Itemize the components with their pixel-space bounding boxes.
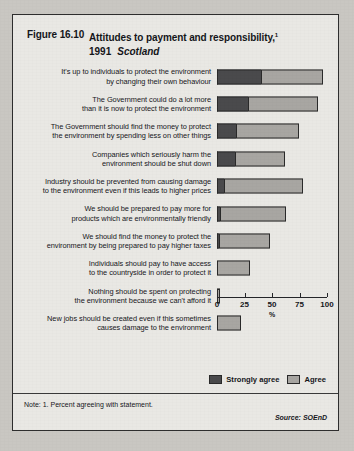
category-label-line: Industry should be prevented from causin… (13, 177, 211, 186)
category-label: It's up to individuals to protect the en… (13, 67, 217, 85)
figure-title: Attitudes to payment and responsibility,… (89, 29, 328, 44)
bar-segment-strongly-agree (217, 124, 236, 139)
legend-item: Agree (287, 375, 326, 384)
category-label-line: to the countryside in order to protect i… (13, 268, 211, 277)
bar-segment-strongly-agree (217, 151, 235, 166)
x-axis-tick-label: 0 (215, 300, 219, 309)
chart-row: Industry should be prevented from causin… (13, 173, 340, 200)
figure-region: Scotland (117, 46, 159, 58)
stacked-bar (217, 97, 318, 112)
category-label: The Government could do a lot morethan i… (13, 95, 217, 113)
figure-title-block: Figure 16.10 Attitudes to payment and re… (27, 29, 328, 58)
bar-track (217, 63, 340, 90)
x-axis-tick-label: 100 (320, 300, 333, 309)
bar-segment-agree (220, 206, 286, 221)
category-label: The Government should find the money to … (13, 122, 217, 140)
bar-track (217, 255, 340, 282)
bar-segment-strongly-agree (217, 97, 248, 112)
bar-track (217, 118, 340, 145)
legend-label: Agree (304, 375, 326, 384)
bar-segment-agree (235, 151, 286, 166)
legend-swatch (209, 375, 222, 384)
x-axis-tick (272, 293, 273, 298)
category-label-line: environment by being prepared to pay hig… (13, 241, 211, 250)
category-label-line: the environment by spending less on othe… (13, 131, 211, 140)
x-axis-tick-label: 50 (268, 300, 277, 309)
x-axis-tick (300, 293, 301, 298)
bar-track (217, 173, 340, 200)
x-axis-label: % (269, 311, 275, 318)
category-label-line: products which are environmentally frien… (13, 214, 211, 223)
legend-label: Strongly agree (226, 375, 279, 384)
figure-number: Figure 16.10 (27, 29, 89, 41)
figure-title-text: Attitudes to payment and responsibility, (89, 32, 275, 43)
x-axis: % 0255075100 (217, 297, 334, 327)
category-label-line: The Government could do a lot more (13, 95, 211, 104)
category-label-line: Nothing should be spent on protecting (13, 287, 211, 296)
category-label-line: causes damage to the environment (13, 323, 211, 332)
stacked-bar (217, 234, 270, 249)
screenshot-page: Figure 16.10 Attitudes to payment and re… (0, 0, 354, 451)
x-axis-tick (327, 293, 328, 298)
bar-segment-strongly-agree (217, 179, 224, 194)
chart-legend: Strongly agreeAgree (13, 375, 326, 384)
bar-segment-agree (217, 261, 250, 276)
title-line-1: Figure 16.10 Attitudes to payment and re… (27, 29, 328, 44)
category-label: We should find the money to protect thee… (13, 232, 217, 250)
bar-segment-strongly-agree (217, 69, 261, 84)
bar-track (217, 90, 340, 117)
category-label: We should be prepared to pay more forpro… (13, 204, 217, 222)
figure-source: Source: SOEnD (275, 414, 327, 421)
x-axis-tick (245, 293, 246, 298)
category-label-line: by changing their own behaviour (13, 77, 211, 86)
stacked-bar (217, 206, 286, 221)
x-axis-tick-label: 75 (295, 300, 304, 309)
category-label: Nothing should be spent on protectingthe… (13, 287, 217, 305)
x-axis-tick-label: 25 (240, 300, 249, 309)
title-line-2: 1991 Scotland (27, 46, 328, 58)
legend-item: Strongly agree (209, 375, 279, 384)
figure-note: Note: 1. Percent agreeing with statement… (24, 401, 153, 408)
chart-row: Companies which seriously harm theenviro… (13, 145, 340, 172)
bar-segment-agree (236, 124, 300, 139)
category-label-line: than it is now to protect the environmen… (13, 104, 211, 113)
bar-segment-agree (261, 69, 323, 84)
category-label-line: environment should be shut down (13, 159, 211, 168)
x-axis-tick (217, 293, 218, 298)
category-label: Industry should be prevented from causin… (13, 177, 217, 195)
chart-row: We should find the money to protect thee… (13, 227, 340, 254)
category-label: Individuals should pay to have accessto … (13, 259, 217, 277)
chart-row: It's up to individuals to protect the en… (13, 63, 340, 90)
bar-track (217, 200, 340, 227)
chart-row: The Government should find the money to … (13, 118, 340, 145)
stacked-bar (217, 124, 299, 139)
chart-row: The Government could do a lot morethan i… (13, 90, 340, 117)
category-label-line: New jobs should be created even if this … (13, 314, 211, 323)
stacked-bar (217, 69, 323, 84)
category-label: New jobs should be created even if this … (13, 314, 217, 332)
figure-title-footnote-marker: 1 (275, 32, 278, 38)
bar-track (217, 145, 340, 172)
figure-panel: Figure 16.10 Attitudes to payment and re… (12, 14, 339, 431)
category-label-line: Companies which seriously harm the (13, 150, 211, 159)
category-label-line: Individuals should pay to have access (13, 259, 211, 268)
bar-segment-agree (219, 234, 270, 249)
stacked-bar (217, 261, 250, 276)
category-label: Companies which seriously harm theenviro… (13, 150, 217, 168)
bar-track (217, 227, 340, 254)
category-label-line: to the environment even if this leads to… (13, 186, 211, 195)
bar-segment-agree (248, 97, 318, 112)
chart-row: We should be prepared to pay more forpro… (13, 200, 340, 227)
category-label-line: We should be prepared to pay more for (13, 204, 211, 213)
category-label-line: The Government should find the money to … (13, 122, 211, 131)
bar-segment-agree (224, 179, 303, 194)
footer-divider (13, 393, 338, 394)
stacked-bar (217, 179, 303, 194)
category-label-line: We should find the money to protect the (13, 232, 211, 241)
x-axis-line (217, 297, 327, 298)
category-label-line: It's up to individuals to protect the en… (13, 67, 211, 76)
stacked-bar (217, 151, 285, 166)
chart-row: Individuals should pay to have accessto … (13, 255, 340, 282)
legend-swatch (287, 375, 300, 384)
figure-year: 1991 (89, 46, 111, 58)
